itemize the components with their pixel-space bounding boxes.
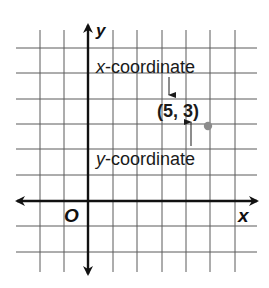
- x-axis-label: x: [237, 205, 250, 226]
- y-axis-label: y: [95, 21, 107, 40]
- y-coordinate-annotation: y-coordinate: [94, 149, 195, 169]
- x-coordinate-annotation: x-coordinate: [95, 57, 195, 77]
- x-coordinate-text: -coordinate: [105, 57, 195, 77]
- y-coordinate-text: -coordinate: [105, 149, 195, 169]
- point-label: (5, 3): [157, 101, 199, 121]
- coordinate-plane-svg: y x O x-coordinate (5, 3) y-coordinate: [0, 0, 269, 288]
- plotted-point: [204, 122, 212, 130]
- origin-label: O: [64, 205, 79, 226]
- coordinate-plane-figure: y x O x-coordinate (5, 3) y-coordinate: [0, 0, 269, 288]
